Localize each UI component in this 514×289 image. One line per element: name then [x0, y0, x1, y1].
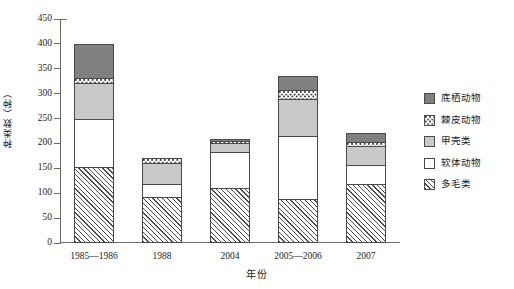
bar-segment-dotted[interactable] — [278, 90, 318, 98]
bar-segment-dark-gray[interactable] — [278, 76, 318, 90]
bar-segment-dark-gray[interactable] — [74, 44, 114, 78]
bar-segment-hatched[interactable] — [74, 167, 114, 243]
y-axis-tick — [54, 118, 61, 119]
bar-segment-white[interactable] — [210, 152, 250, 188]
y-axis-tick-label: 350 — [6, 64, 52, 74]
x-axis-tick-label: 1985—1986 — [60, 251, 128, 261]
bar-segment-hatched[interactable] — [210, 188, 250, 243]
y-axis-tick-label: 50 — [6, 213, 52, 223]
x-axis-tick-label: 1988 — [128, 251, 196, 261]
bar-group — [332, 19, 400, 243]
legend-swatch-light-gray — [424, 136, 435, 147]
bar-group — [60, 19, 128, 243]
legend-label: 多毛类 — [441, 179, 471, 190]
x-axis-title: 年份 — [0, 266, 514, 281]
stacked-bar[interactable] — [278, 76, 318, 243]
bars-layer — [60, 19, 400, 243]
legend-swatch-hatched — [424, 179, 435, 190]
y-axis-tick-label: 300 — [6, 89, 52, 99]
bar-group — [196, 19, 264, 243]
y-axis-tick — [54, 168, 61, 169]
bar-segment-white[interactable] — [278, 136, 318, 199]
y-axis-tick-label: 200 — [6, 138, 52, 148]
legend: 底栖动物棘皮动物甲壳类软体动物多毛类 — [424, 88, 481, 196]
chart-container: 种类数（种） 050100150200250300350400450 年份 底栖… — [0, 0, 514, 289]
y-axis-tick — [54, 243, 61, 244]
stacked-bar[interactable] — [74, 44, 114, 243]
y-axis-tick-label: 100 — [6, 188, 52, 198]
bar-segment-hatched[interactable] — [142, 197, 182, 243]
y-axis-tick — [54, 68, 61, 69]
stacked-bar[interactable] — [346, 133, 386, 243]
y-axis-tick-label: 250 — [6, 114, 52, 124]
y-axis-tick-label: 150 — [6, 163, 52, 173]
y-axis-tick-label: 450 — [6, 14, 52, 24]
x-axis-tick-label: 2005—2006 — [264, 251, 332, 261]
bar-segment-light-gray[interactable] — [142, 163, 182, 184]
bar-group — [128, 19, 196, 243]
bar-segment-white[interactable] — [142, 184, 182, 196]
legend-label: 底栖动物 — [441, 93, 481, 104]
bar-group — [264, 19, 332, 243]
bar-segment-hatched[interactable] — [278, 199, 318, 243]
legend-item[interactable]: 底栖动物 — [424, 88, 481, 110]
y-axis-tick — [54, 93, 61, 94]
y-axis-tick — [54, 19, 61, 20]
stacked-bar[interactable] — [210, 139, 250, 244]
stacked-bar[interactable] — [142, 158, 182, 243]
legend-swatch-dark-gray — [424, 93, 435, 104]
legend-swatch-dotted — [424, 115, 435, 126]
y-axis-tick-label: 400 — [6, 39, 52, 49]
legend-item[interactable]: 棘皮动物 — [424, 110, 481, 132]
bar-segment-light-gray[interactable] — [346, 146, 386, 165]
bar-segment-white[interactable] — [74, 119, 114, 167]
legend-item[interactable]: 软体动物 — [424, 153, 481, 175]
x-axis-tick-label: 2004 — [196, 251, 264, 261]
bar-segment-white[interactable] — [346, 165, 386, 184]
legend-item[interactable]: 多毛类 — [424, 174, 481, 196]
bar-segment-light-gray[interactable] — [278, 99, 318, 136]
y-axis-tick — [54, 193, 61, 194]
legend-label: 软体动物 — [441, 158, 481, 169]
legend-label: 棘皮动物 — [441, 115, 481, 126]
bar-segment-light-gray[interactable] — [210, 143, 250, 151]
legend-item[interactable]: 甲壳类 — [424, 131, 481, 153]
y-axis-tick — [54, 218, 61, 219]
bar-segment-light-gray[interactable] — [74, 83, 114, 119]
legend-swatch-white — [424, 158, 435, 169]
y-axis-labels: 050100150200250300350400450 — [0, 0, 52, 289]
legend-label: 甲壳类 — [441, 136, 471, 147]
y-axis-tick — [54, 43, 61, 44]
x-axis-tick-label: 2007 — [332, 251, 400, 261]
bar-segment-hatched[interactable] — [346, 184, 386, 243]
y-axis-tick — [54, 143, 61, 144]
y-axis-tick-label: 0 — [6, 238, 52, 248]
bar-segment-dark-gray[interactable] — [346, 133, 386, 143]
